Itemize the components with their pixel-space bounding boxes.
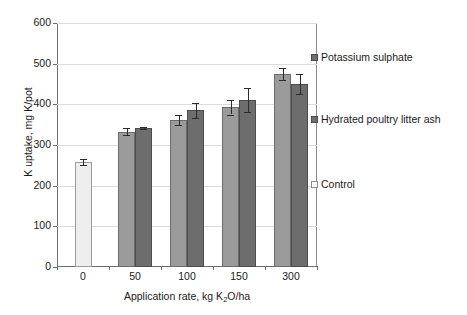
x-tick-label: 150 bbox=[219, 270, 259, 282]
error-bar-cap bbox=[296, 94, 303, 95]
legend-label: Potassium sulphate bbox=[321, 51, 413, 63]
error-bar-cap bbox=[80, 165, 87, 166]
error-bar-cap bbox=[175, 125, 182, 126]
bar bbox=[222, 107, 239, 267]
error-bar-cap bbox=[227, 115, 234, 116]
bar bbox=[274, 74, 291, 267]
x-axis-title: Application rate, kg K2O/ha bbox=[57, 290, 317, 304]
dark-gray-square-icon bbox=[311, 116, 318, 123]
x-axis-title-post: O/ha bbox=[227, 290, 250, 302]
error-bar-cap bbox=[244, 112, 251, 113]
bar bbox=[170, 120, 187, 267]
bar bbox=[135, 128, 152, 267]
x-tick-mark bbox=[317, 266, 318, 270]
bar bbox=[75, 162, 92, 267]
error-bar bbox=[231, 100, 232, 115]
legend-item-potassium-sulphate: Potassium sulphate bbox=[311, 51, 413, 63]
chart-figure: 0100200300400500600 050100150300 Applica… bbox=[0, 0, 467, 315]
error-bar-cap bbox=[192, 103, 199, 104]
error-bar-cap bbox=[140, 127, 147, 128]
error-bar-cap bbox=[244, 88, 251, 89]
legend-item-control: Control bbox=[311, 178, 355, 190]
error-bar-cap bbox=[80, 159, 87, 160]
bar bbox=[187, 110, 204, 267]
y-axis-title: K uptake, mg K/pot bbox=[22, 42, 34, 222]
x-tick-label: 100 bbox=[167, 270, 207, 282]
y-tick-mark bbox=[53, 145, 57, 146]
x-tick-mark bbox=[57, 266, 58, 270]
y-tick-mark bbox=[53, 186, 57, 187]
error-bar-cap bbox=[140, 129, 147, 130]
error-bar-cap bbox=[192, 118, 199, 119]
y-tick-mark bbox=[53, 64, 57, 65]
gridline bbox=[57, 64, 317, 65]
white-square-icon bbox=[311, 181, 318, 188]
error-bar bbox=[179, 115, 180, 126]
error-bar-cap bbox=[227, 100, 234, 101]
x-tick-mark bbox=[109, 266, 110, 270]
error-bar bbox=[283, 68, 284, 80]
error-bar bbox=[248, 88, 249, 112]
x-axis-title-pre: Application rate, kg K bbox=[124, 290, 223, 302]
bar bbox=[239, 100, 256, 267]
y-tick-mark bbox=[53, 226, 57, 227]
y-tick-mark bbox=[53, 23, 57, 24]
x-tick-label: 300 bbox=[271, 270, 311, 282]
x-tick-label: 50 bbox=[115, 270, 155, 282]
bar bbox=[291, 84, 308, 267]
x-tick-mark bbox=[161, 266, 162, 270]
x-tick-mark bbox=[213, 266, 214, 270]
gridline bbox=[57, 23, 317, 24]
legend-item-hydrated-poultry-litter-ash: Hydrated poultry litter ash bbox=[311, 113, 441, 125]
y-tick-mark bbox=[53, 104, 57, 105]
error-bar-cap bbox=[296, 74, 303, 75]
bar bbox=[118, 132, 135, 267]
legend-label: Hydrated poultry litter ash bbox=[321, 113, 441, 125]
error-bar-cap bbox=[123, 128, 130, 129]
error-bar-cap bbox=[175, 115, 182, 116]
error-bar-cap bbox=[123, 135, 130, 136]
legend-label: Control bbox=[321, 178, 355, 190]
y-tick-label: 600 bbox=[0, 17, 51, 28]
y-tick-label: 0 bbox=[0, 261, 51, 272]
x-tick-label: 0 bbox=[63, 270, 103, 282]
dark-gray-square-icon bbox=[311, 54, 318, 61]
error-bar-cap bbox=[279, 68, 286, 69]
error-bar bbox=[300, 74, 301, 94]
error-bar-cap bbox=[279, 80, 286, 81]
x-tick-mark bbox=[265, 266, 266, 270]
error-bar bbox=[196, 103, 197, 118]
